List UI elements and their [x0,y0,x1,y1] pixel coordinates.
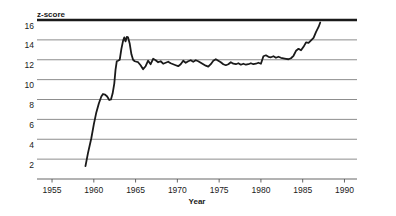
chart-figure: 246810121416 195519601965197019751980198… [0,0,396,216]
y-axis-tick-label: 6 [29,120,34,130]
x-axis-title: Year [189,197,206,206]
y-axis-tick-label: 8 [29,100,34,110]
x-axis-tick-label: 1990 [335,185,354,195]
x-axis-tick-label: 1960 [84,185,103,195]
y-axis-tick-label: 16 [25,21,35,31]
x-axis-tick-label: 1955 [43,185,62,195]
x-axis-tick-label: 1975 [210,185,229,195]
x-axis-tick-label: 1965 [126,185,145,195]
x-axis-tick-label: 1985 [293,185,312,195]
x-axis-tick-label: 1980 [251,185,270,195]
y-axis-tick-label: 12 [25,60,35,70]
y-axis-tick-label: 4 [29,140,34,150]
y-axis-tick-label: 14 [25,40,35,50]
y-axis-tick-label: 2 [29,160,34,170]
chart-background [0,0,396,216]
y-axis-title: z-score [37,10,66,19]
y-axis-tick-label: 10 [25,80,35,90]
x-axis-tick-label: 1970 [168,185,187,195]
z-score-line-chart: 246810121416 195519601965197019751980198… [0,0,396,216]
